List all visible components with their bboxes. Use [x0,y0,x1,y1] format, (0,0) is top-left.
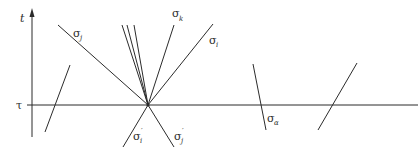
svg-text:′: ′ [141,127,143,135]
svg-text:k: k [179,15,183,23]
tau-label: τ [16,99,22,112]
fan-line-2 [127,25,148,105]
axis-arrow-icon [30,8,35,17]
sigma-i-prime-label: σ i ′ [133,127,143,145]
sigma-k-label: σ k [172,7,183,23]
sigma-alpha-line [253,64,266,130]
sigma-alpha-label: σ α [267,112,279,127]
t-axis-label: t [20,12,25,25]
sigma-j-label: σ j [73,27,83,42]
sigma-k-line [148,25,174,105]
sigma-j-prime-label: σ j ′ [174,127,184,145]
fan-line-3 [134,25,148,105]
sigma-i-line [148,24,213,105]
right-segment [318,63,357,130]
svg-text:′: ′ [182,127,184,135]
svg-text:i: i [140,137,142,145]
left-segment [45,65,70,132]
sigma-i-label: σ i [209,34,218,49]
diagram-canvas: t τ σ j σ k σ i σ i ′ σ j ′ σ α [0,0,420,153]
sigma-j-prime-line [148,105,174,147]
svg-text:α: α [274,119,279,127]
svg-text:i: i [216,41,218,49]
